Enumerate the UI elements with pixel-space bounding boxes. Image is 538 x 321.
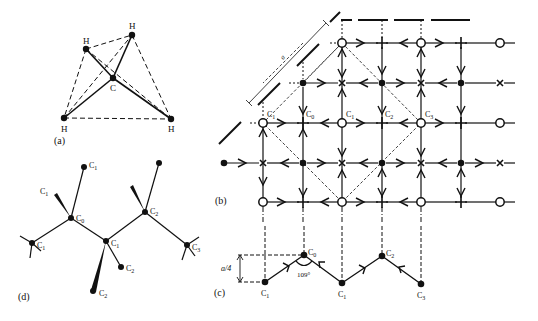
atom-label: C (110, 83, 116, 93)
atom-label: C1 (37, 241, 45, 251)
panel-label-c: (c) (214, 287, 225, 299)
open-circle-node (417, 198, 425, 206)
filled-node (458, 160, 465, 167)
carbon-atom (184, 242, 190, 248)
atom-label: C2 (99, 289, 107, 299)
atom-label: C1 (89, 161, 97, 171)
filled-node (221, 160, 228, 167)
atom-label: C0 (308, 248, 316, 258)
dotted-verticals (250, 20, 421, 123)
carbon-atom (90, 288, 96, 294)
hydrogen-atom (83, 46, 89, 52)
atom-label: C1 (111, 239, 119, 249)
height-label: a/4 (221, 264, 231, 273)
filled-node (458, 80, 465, 87)
open-circle-node (338, 198, 346, 206)
filled-node (300, 160, 307, 167)
atom-label: C2 (386, 249, 394, 259)
carbon-atom (418, 281, 425, 288)
plus-node (297, 196, 309, 208)
panel-d-zigzag-chain: C1 C1 C0 C1 C1 C2 C2 C2 C3 (d) (18, 160, 200, 303)
atom-label: H (129, 21, 136, 31)
open-circle-node (496, 39, 504, 47)
node-label-c3: C3 (425, 110, 433, 120)
open-circle-node (338, 119, 346, 127)
atom-label: C1 (338, 290, 346, 300)
open-circle-node (496, 119, 504, 127)
plus-node (455, 37, 467, 49)
filled-node (379, 160, 386, 167)
carbon-atom (110, 75, 116, 81)
open-circle-node (496, 198, 504, 206)
height-dimension (237, 255, 243, 282)
carbon-atom (103, 238, 109, 244)
hydrogen-atom (129, 32, 135, 38)
panel-label-b: (b) (215, 195, 227, 207)
hydrogen-atom (168, 116, 174, 122)
atom-label: H (83, 36, 90, 46)
carbon-atom (379, 253, 386, 260)
panel-a-tetrahedron: H H C H H (a) (54, 21, 175, 147)
open-circle-node (259, 198, 267, 206)
tetrahedron-edges (64, 35, 171, 119)
wedge-bond (91, 241, 106, 292)
plus-node (455, 117, 467, 129)
hydrogen-atom (61, 115, 67, 121)
atom-label: C1 (40, 187, 48, 197)
carbon-atom (142, 209, 148, 215)
atom-label: H (168, 124, 175, 134)
open-circle-node (417, 39, 425, 47)
carbon-atom (301, 252, 308, 259)
x-node (497, 160, 503, 166)
atom-label: C2 (150, 207, 158, 217)
atom-label: C3 (192, 243, 200, 253)
node-label-c2: C2 (385, 110, 393, 120)
dimension-line-a (246, 20, 329, 106)
carbon-atom (339, 280, 346, 287)
atom-label: C2 (126, 264, 134, 274)
angle-label: 109° (297, 271, 311, 279)
panel-c-side-view: a/4 109° C1 C0 C1 C2 C3 (c) (214, 226, 425, 301)
carbon-atom (68, 215, 74, 221)
wedge-bond (54, 193, 71, 218)
atom-label: C1 (261, 289, 269, 299)
carbon-atom (156, 160, 162, 166)
filled-node (300, 80, 307, 87)
panel-label-a: (a) (54, 135, 65, 147)
open-circle-node (417, 119, 425, 127)
carbon-atom (81, 164, 87, 170)
plus-node (376, 196, 388, 208)
plus-node (376, 37, 388, 49)
panel-label-d: (d) (18, 291, 30, 303)
panel-b-lattice: a (215, 12, 515, 222)
carbon-atom (29, 240, 35, 246)
atoms (29, 160, 190, 294)
carbon-atom (118, 264, 124, 270)
open-circle-node (338, 39, 346, 47)
filled-node (379, 80, 386, 87)
atom-label: C3 (417, 291, 425, 301)
bonds (20, 163, 199, 267)
open-circle-node (259, 119, 267, 127)
lattice-param-label: a (279, 53, 288, 61)
zigzag-bonds (265, 255, 421, 284)
carbon-atom (262, 279, 269, 286)
atom-label: H (61, 124, 68, 134)
figure-canvas: H H C H H (a) (0, 0, 538, 321)
projection-lines (263, 207, 421, 222)
x-node (497, 80, 503, 86)
wedge-bond (130, 185, 145, 212)
angle-arc (296, 261, 312, 266)
node-label-c0: C0 (306, 110, 314, 120)
node-label-c1: C1 (346, 110, 354, 120)
atom-label: C0 (76, 214, 84, 224)
plus-node (455, 196, 467, 208)
